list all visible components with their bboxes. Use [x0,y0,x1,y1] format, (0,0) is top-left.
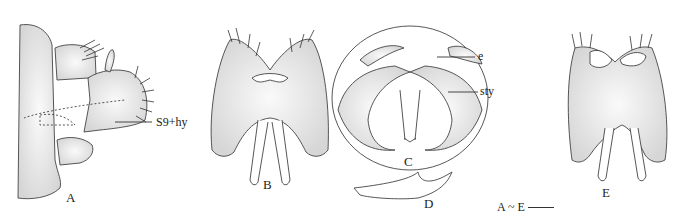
annotation-e: e [478,50,483,62]
annotation-s9-hy: S9+hy [156,116,187,128]
panel-label-e: E [602,186,610,199]
panel-label-c: C [404,155,413,168]
panel-e-drawing [568,32,667,181]
panel-b-drawing [211,28,328,185]
panel-label-d: D [424,197,433,210]
figure: A B C D E S9+hy e sty A ~ E [0,0,692,223]
panel-label-a: A [66,191,75,204]
panel-label-b: B [263,178,272,191]
scale-bar-label: A ~ E [497,201,525,213]
drawings [0,0,692,223]
annotation-sty: sty [480,85,494,97]
scale-bar-line [528,207,554,208]
panel-a-drawing [18,25,154,199]
panel-c-drawing [332,26,488,199]
scale-bar: A ~ E [497,201,554,213]
